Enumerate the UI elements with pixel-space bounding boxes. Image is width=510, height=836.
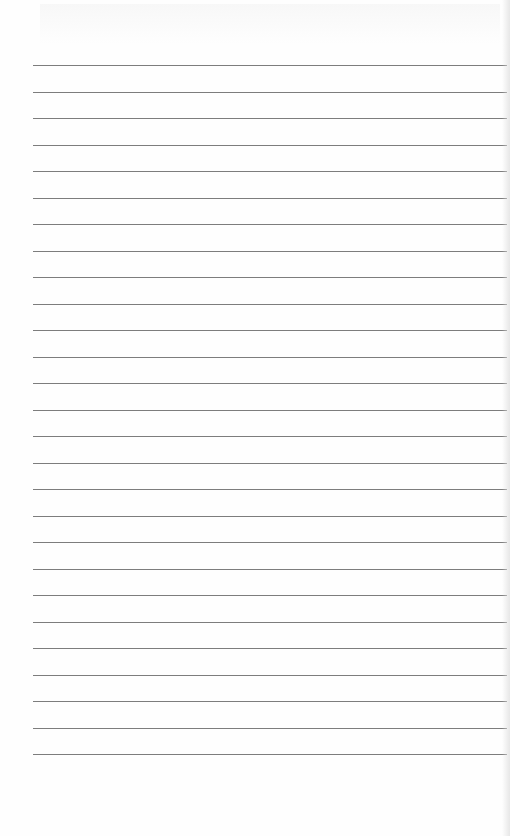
ruled-line xyxy=(33,330,507,331)
ruled-line xyxy=(33,357,507,358)
ruled-line xyxy=(33,728,507,729)
ruled-line xyxy=(33,569,507,570)
ruled-line xyxy=(33,701,507,702)
ruled-line xyxy=(33,463,507,464)
ruled-line xyxy=(33,754,507,755)
ruled-line xyxy=(33,516,507,517)
ruled-line xyxy=(33,145,507,146)
ruled-line xyxy=(33,542,507,543)
page-edge-shadow xyxy=(502,0,510,836)
ruled-line xyxy=(33,595,507,596)
lined-paper-page xyxy=(0,0,510,836)
ruled-line xyxy=(33,251,507,252)
ruled-line xyxy=(33,118,507,119)
ruled-line xyxy=(33,410,507,411)
ruled-line xyxy=(33,65,507,66)
ruled-line xyxy=(33,304,507,305)
ruled-line xyxy=(33,224,507,225)
ruled-line xyxy=(33,277,507,278)
ruled-line xyxy=(33,648,507,649)
ruled-line xyxy=(33,383,507,384)
ruled-lines xyxy=(33,0,507,836)
ruled-line xyxy=(33,92,507,93)
ruled-line xyxy=(33,675,507,676)
ruled-line xyxy=(33,489,507,490)
ruled-line xyxy=(33,622,507,623)
ruled-line xyxy=(33,171,507,172)
ruled-line xyxy=(33,198,507,199)
ruled-line xyxy=(33,436,507,437)
